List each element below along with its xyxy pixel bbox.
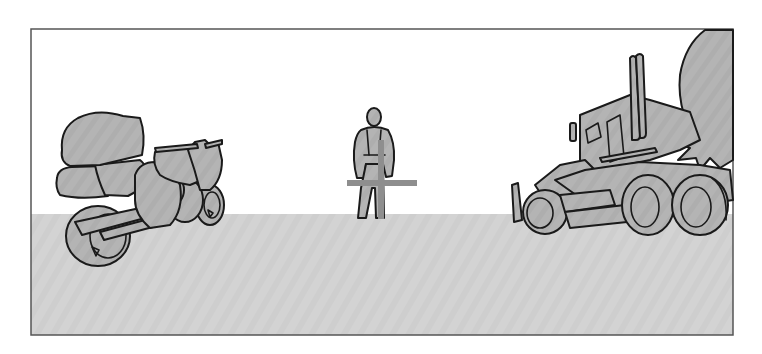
person-head — [367, 108, 381, 126]
illustration-scene — [0, 0, 762, 354]
motorcycle-top-case — [62, 112, 144, 166]
vertical-bar — [378, 140, 384, 219]
